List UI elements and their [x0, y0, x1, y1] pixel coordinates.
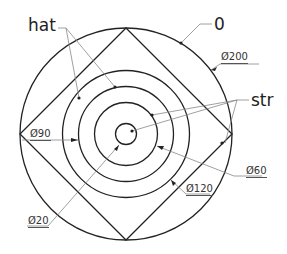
d60-arrow: [157, 146, 164, 150]
str-point-3: [220, 141, 223, 144]
d120-arrow: [171, 180, 176, 186]
hat-leader-2: [66, 28, 115, 87]
hat-point-2: [113, 85, 116, 88]
d90-arrow: [71, 138, 78, 142]
str-point-2: [150, 113, 153, 116]
circle-20: [116, 124, 137, 145]
inscribed-square: [20, 28, 232, 240]
label-zero: 0: [214, 16, 225, 33]
hat-leader: [58, 28, 79, 98]
dim-120: Ø120: [186, 184, 213, 196]
dim-200: Ø200: [221, 52, 248, 64]
label-str: str: [251, 92, 274, 109]
circle-60: [95, 103, 158, 166]
zero-leader: [181, 24, 212, 43]
d200-leader: [211, 64, 259, 70]
dim-90: Ø90: [30, 129, 51, 141]
dim-60: Ø60: [246, 166, 267, 178]
str-point: [130, 129, 133, 132]
str-leader-3: [225, 100, 237, 143]
circle-90: [79, 87, 174, 182]
circle-outer-200: [20, 28, 232, 240]
circle-120: [63, 71, 190, 198]
zero-point: [179, 41, 182, 44]
dim-20: Ø20: [28, 216, 49, 228]
label-hat: hat: [28, 17, 56, 34]
hat-point: [77, 96, 80, 99]
